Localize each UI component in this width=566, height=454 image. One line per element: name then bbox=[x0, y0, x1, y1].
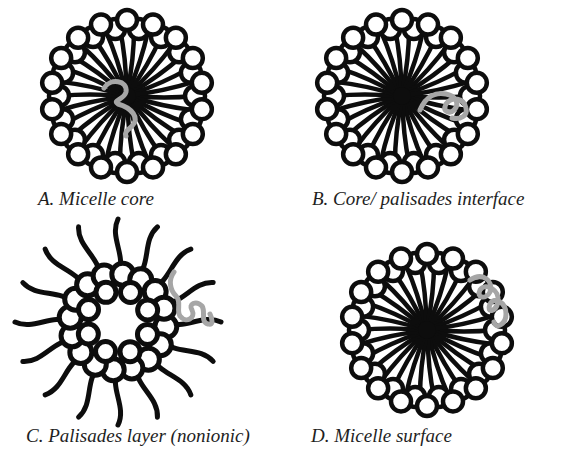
surfactant-head bbox=[143, 15, 163, 35]
surfactant-head bbox=[492, 333, 512, 353]
surfactant-head bbox=[117, 162, 137, 182]
surfactant-head bbox=[96, 341, 116, 361]
surfactant-head bbox=[391, 391, 411, 411]
surfactant-head bbox=[166, 144, 186, 164]
surfactant-head bbox=[392, 162, 412, 182]
micelle-core-center bbox=[418, 321, 436, 339]
surfactant-head bbox=[79, 300, 99, 320]
surfactant-head bbox=[351, 282, 371, 302]
surfactant-head bbox=[166, 28, 186, 48]
surfactant-head bbox=[366, 15, 386, 35]
surfactant-head bbox=[42, 99, 62, 119]
micelle-core-diagram bbox=[42, 10, 212, 182]
surfactant-head bbox=[351, 358, 371, 378]
surfactant-head bbox=[368, 262, 388, 282]
caption-palisades-layer: C. Palisades layer (nonionic) bbox=[26, 425, 250, 447]
surfactant-head bbox=[483, 358, 503, 378]
surfactant-head bbox=[458, 124, 478, 144]
surfactant-head bbox=[120, 283, 140, 303]
surfactant-head bbox=[417, 244, 437, 264]
surfactant-head bbox=[317, 73, 337, 93]
surfactant-head bbox=[343, 144, 363, 164]
surfactant-head bbox=[418, 157, 438, 177]
surfactant-head bbox=[443, 391, 463, 411]
surfactant-head bbox=[342, 333, 362, 353]
surfactant-head bbox=[466, 378, 486, 398]
surfactant-head bbox=[183, 124, 203, 144]
surfactant-head bbox=[368, 378, 388, 398]
surfactant-head bbox=[342, 307, 362, 327]
surfactant-head bbox=[42, 73, 62, 93]
solubilizate-molecule bbox=[170, 272, 212, 324]
caption-micelle-surface: D. Micelle surface bbox=[311, 425, 452, 447]
surfactant-head bbox=[91, 15, 111, 35]
surfactant-head bbox=[68, 144, 88, 164]
surfactant-head bbox=[51, 124, 71, 144]
caption-core-palisades-interface: B. Core/ palisades interface bbox=[312, 188, 525, 210]
surfactant-head bbox=[51, 48, 71, 68]
micelle-surface-diagram bbox=[342, 244, 512, 416]
surfactant-head bbox=[192, 73, 212, 93]
surfactant-head bbox=[326, 124, 346, 144]
surfactant-head bbox=[418, 15, 438, 35]
surfactant-head bbox=[366, 157, 386, 177]
palisades-layer-diagram bbox=[15, 219, 221, 425]
surfactant-head bbox=[443, 249, 463, 269]
surfactant-head bbox=[96, 282, 116, 302]
surfactant-head bbox=[117, 10, 137, 30]
surfactant-head bbox=[458, 48, 478, 68]
surfactant-head bbox=[317, 99, 337, 119]
surfactant-head bbox=[391, 249, 411, 269]
caption-micelle-core: A. Micelle core bbox=[38, 188, 154, 210]
surfactant-head bbox=[441, 144, 461, 164]
micelle-diagram bbox=[0, 0, 566, 454]
surfactant-head bbox=[441, 28, 461, 48]
surfactant-head bbox=[467, 99, 487, 119]
surfactant-head bbox=[326, 48, 346, 68]
surfactant-head bbox=[138, 300, 158, 320]
surfactant-head bbox=[343, 28, 363, 48]
surfactant-head bbox=[91, 157, 111, 177]
surfactant-head bbox=[68, 28, 88, 48]
surfactant-head bbox=[78, 324, 98, 344]
surfactant-head bbox=[192, 99, 212, 119]
surfactant-head bbox=[392, 10, 412, 30]
micelle-core-center bbox=[393, 87, 411, 105]
surfactant-head bbox=[417, 396, 437, 416]
surfactant-head bbox=[120, 342, 140, 362]
surfactant-head bbox=[467, 73, 487, 93]
surfactant-head bbox=[143, 157, 163, 177]
surfactant-head bbox=[137, 324, 157, 344]
surfactant-head bbox=[183, 48, 203, 68]
core-palisades-interface-diagram bbox=[317, 10, 487, 182]
